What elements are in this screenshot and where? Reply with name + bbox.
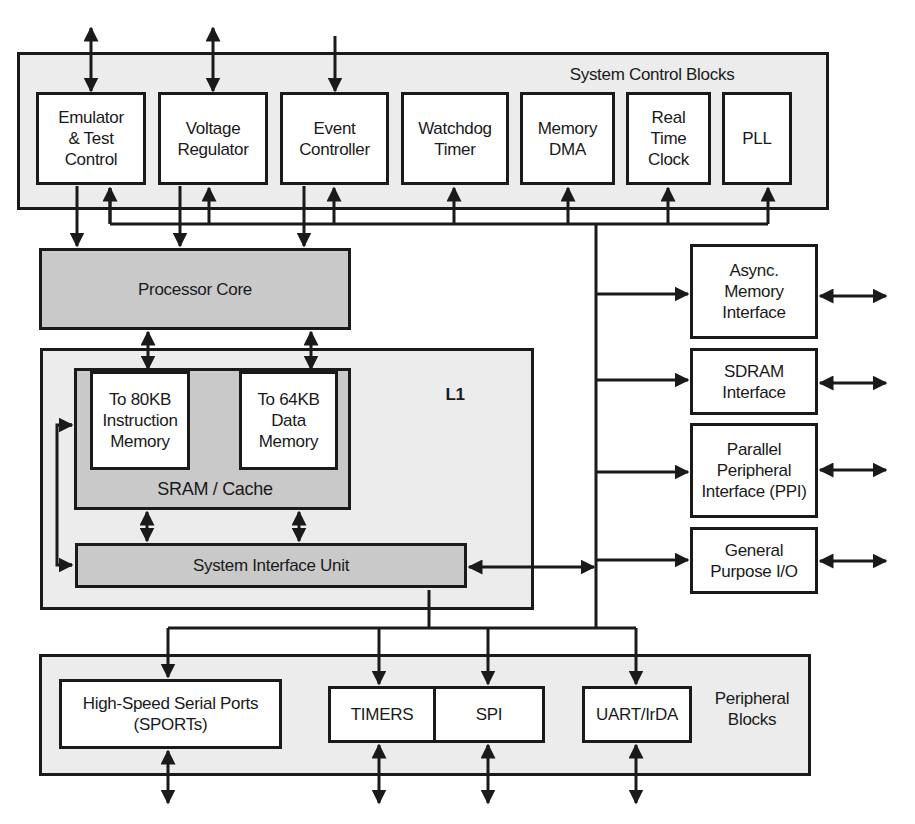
l1-title: L1 [435, 384, 475, 405]
system-interface-unit[interactable]: System Interface Unit [75, 543, 467, 588]
parallel-peripheral-interface[interactable]: Parallel Peripheral Interface (PPI) [690, 423, 818, 518]
block-event-controller[interactable]: Event Controller [280, 92, 389, 185]
block-sports[interactable]: High-Speed Serial Ports (SPORTs) [59, 679, 282, 749]
instruction-memory[interactable]: To 80KB Instruction Memory [90, 371, 190, 470]
block-spi[interactable]: SPI [433, 686, 545, 743]
block-watchdog-timer[interactable]: Watchdog Timer [401, 92, 509, 185]
system-interface-unit-label: System Interface Unit [193, 555, 349, 576]
block-uart-irda[interactable]: UART/IrDA [582, 686, 692, 743]
block-emulator-test-control[interactable]: Emulator & Test Control [36, 92, 146, 185]
block-memory-dma[interactable]: Memory DMA [520, 92, 615, 185]
system-control-blocks-title: System Control Blocks [552, 64, 752, 85]
sram-cache-label: SRAM / Cache [130, 479, 300, 500]
block-voltage-regulator[interactable]: Voltage Regulator [158, 92, 268, 185]
block-pll[interactable]: PLL [722, 92, 792, 185]
processor-core[interactable]: Processor Core [39, 248, 351, 330]
block-real-time-clock[interactable]: Real Time Clock [626, 92, 711, 185]
async-memory-interface[interactable]: Async. Memory Interface [690, 244, 818, 339]
peripheral-blocks-title: Peripheral Blocks [702, 688, 802, 730]
processor-core-label: Processor Core [138, 279, 252, 300]
data-memory[interactable]: To 64KB Data Memory [239, 371, 338, 470]
sdram-interface[interactable]: SDRAM Interface [690, 348, 818, 415]
general-purpose-io[interactable]: General Purpose I/O [690, 527, 818, 594]
block-timers[interactable]: TIMERS [328, 686, 436, 743]
